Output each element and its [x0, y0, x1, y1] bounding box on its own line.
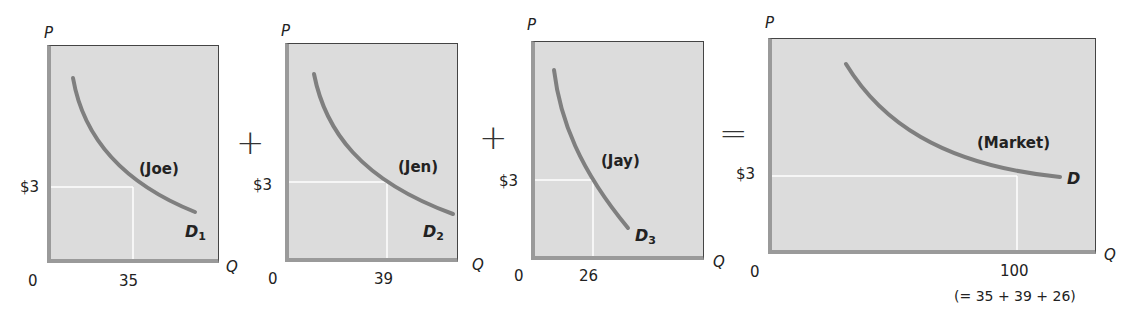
guide-lines-jay — [535, 180, 593, 256]
guide-lines-market — [772, 176, 1017, 250]
guide-lines-joe — [51, 187, 133, 259]
guide-lines-jen — [289, 182, 387, 258]
demand-curve-jay — [554, 70, 628, 228]
demand-curve-joe — [73, 78, 195, 212]
demand-curve-market — [846, 64, 1060, 177]
curves-overlay — [0, 0, 1133, 321]
demand-curve-jen — [314, 74, 453, 214]
